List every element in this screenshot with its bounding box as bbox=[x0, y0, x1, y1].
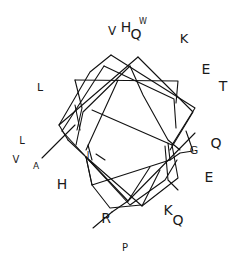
residue-label: A bbox=[33, 162, 39, 171]
residue-label: L bbox=[19, 136, 25, 146]
residue-label: Q bbox=[130, 27, 141, 41]
residue-label: Q bbox=[172, 213, 183, 227]
residue-label: E bbox=[202, 62, 211, 76]
residue-label: V bbox=[108, 25, 116, 37]
helical-wheel-diagram: V H Q W K E T L Q G E L V A H I R K Q P bbox=[0, 0, 235, 262]
residue-label: E bbox=[205, 170, 214, 184]
residue-label: K bbox=[180, 32, 189, 45]
residue-label: H bbox=[57, 177, 68, 191]
residue-label: V bbox=[13, 155, 20, 165]
helical-wheel-lines bbox=[0, 0, 235, 262]
residue-label: G bbox=[190, 145, 199, 156]
residue-label: P bbox=[122, 243, 128, 253]
residue-label: R bbox=[101, 211, 111, 225]
residue-label: L bbox=[37, 82, 43, 93]
residue-label: Q bbox=[210, 136, 221, 150]
residue-label: K bbox=[163, 203, 172, 217]
residue-label: W bbox=[139, 18, 147, 26]
residue-label: I bbox=[87, 151, 90, 160]
residue-label: T bbox=[219, 79, 228, 93]
